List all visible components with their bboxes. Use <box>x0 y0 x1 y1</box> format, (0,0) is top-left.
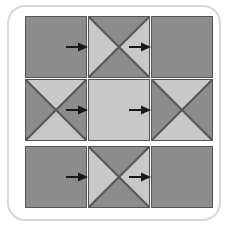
grid-cell-solid <box>151 146 213 208</box>
flow-arrow-right <box>128 41 152 53</box>
diagram-root <box>0 0 231 229</box>
flow-arrow-right <box>65 104 89 116</box>
arrow-head <box>141 43 151 52</box>
flow-arrow-right <box>65 171 89 183</box>
arrow-head <box>78 173 88 182</box>
arrow-head <box>78 106 88 115</box>
arrow-head <box>78 43 88 52</box>
arrow-head <box>141 173 151 182</box>
grid-cell-solid <box>151 16 213 78</box>
flow-arrow-right <box>65 41 89 53</box>
arrow-head <box>141 106 151 115</box>
flow-arrow-right <box>128 104 152 116</box>
flow-arrow-right <box>128 171 152 183</box>
grid-cell-crossed <box>151 79 213 141</box>
